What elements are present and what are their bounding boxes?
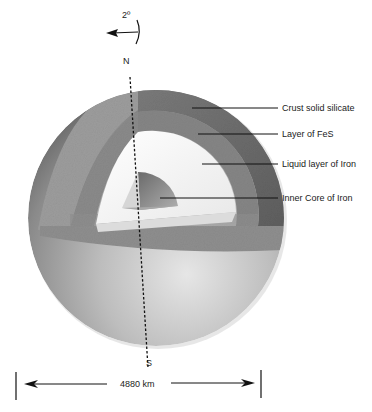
south-pole-label: S [146, 359, 152, 368]
label-liquid-iron: Liquid layer of Iron [282, 160, 356, 169]
label-inner-core: Inner Core of Iron [282, 194, 353, 203]
label-crust: Crust solid silicate [282, 104, 355, 113]
mercury-interior-diagram: 2º N S Crust solid silicate Layer of FeS… [0, 0, 372, 412]
diagram-graphic [0, 0, 372, 412]
diameter-label: 4880 km [120, 380, 155, 389]
label-fes: Layer of FeS [282, 130, 334, 139]
rotation-label: 2º [122, 11, 130, 20]
north-pole-label: N [123, 57, 130, 66]
